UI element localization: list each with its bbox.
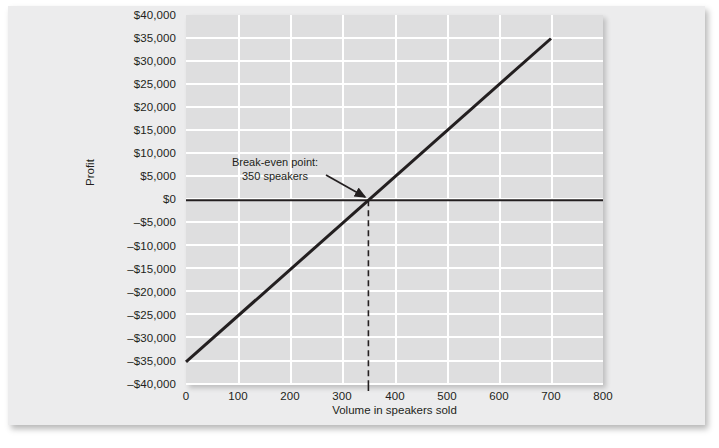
y-tick-label: $40,000 [78, 9, 176, 21]
gridline-vertical [551, 15, 553, 385]
gridline-vertical [447, 15, 449, 385]
x-tick-label: 600 [479, 390, 519, 402]
break-even-annotation-line1: Break-even point: [213, 156, 337, 170]
gridline-vertical [290, 15, 292, 385]
x-tick-label: 800 [583, 390, 623, 402]
x-tick-label: 300 [322, 390, 362, 402]
y-tick-label: $25,000 [78, 78, 176, 90]
y-tick-label: $35,000 [78, 32, 176, 44]
y-tick-label: –$40,000 [78, 378, 176, 390]
x-tick-label: 500 [427, 390, 467, 402]
gridline-vertical [499, 15, 501, 385]
y-tick-label: –$15,000 [78, 263, 176, 275]
y-tick-label: –$25,000 [78, 309, 176, 321]
y-tick-label: –$5,000 [78, 216, 176, 228]
y-tick-label: $10,000 [78, 147, 176, 159]
y-tick-label: –$10,000 [78, 240, 176, 252]
plot-area [186, 15, 603, 385]
y-axis-title: Profit [84, 159, 96, 186]
y-tick-label: –$20,000 [78, 286, 176, 298]
break-even-annotation-line2: 350 speakers [213, 170, 337, 184]
x-tick-label: 700 [531, 390, 571, 402]
x-tick-label: 200 [270, 390, 310, 402]
break-even-annotation: Break-even point: 350 speakers [213, 156, 337, 183]
y-tick-label: –$30,000 [78, 332, 176, 344]
x-tick-label: 400 [375, 390, 415, 402]
gridline-vertical [342, 15, 344, 385]
chart-figure: $40,000 $35,000 $30,000 $25,000 $20,000 … [0, 0, 719, 448]
x-axis-title: Volume in speakers sold [186, 404, 603, 416]
y-tick-label: $20,000 [78, 101, 176, 113]
y-tick-label: $30,000 [78, 55, 176, 67]
gridline-vertical [395, 15, 397, 385]
x-tick-label: 0 [166, 390, 206, 402]
y-tick-label: $15,000 [78, 124, 176, 136]
gridline-vertical [238, 15, 240, 385]
x-tick-label: 100 [218, 390, 258, 402]
y-tick-label: $0 [78, 193, 176, 205]
y-tick-label: –$35,000 [78, 355, 176, 367]
